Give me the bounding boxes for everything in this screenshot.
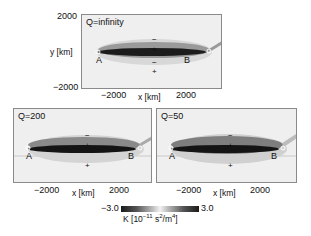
point-a-label: A	[96, 55, 102, 65]
panel-q-50: Q=50 A B − + +	[156, 108, 297, 183]
x-tick-left: −2000	[176, 185, 201, 195]
x-tick-left: −2000	[34, 185, 59, 195]
cb-label-exp: −11	[143, 213, 153, 219]
point-a-label: A	[169, 151, 175, 161]
colorbar-max: 3.0	[201, 203, 214, 213]
panel-label: Q=200	[18, 111, 45, 121]
colorbar	[121, 206, 199, 212]
x-tick-right: 2000	[109, 185, 129, 195]
point-a-label: A	[26, 151, 32, 161]
cb-label-part: ]	[175, 214, 177, 224]
point-b-label: B	[128, 151, 134, 161]
x-tick-left: −2000	[101, 90, 126, 100]
point-b-label: B	[184, 55, 190, 65]
colorbar-label: K [10−11 s2/m4]	[123, 213, 178, 224]
sign-minus: −	[152, 58, 157, 67]
sign-plus: +	[228, 161, 233, 170]
sign-plus: +	[228, 141, 233, 150]
colorbar-min: −3.0	[101, 203, 119, 213]
x-axis-label: x [km]	[72, 188, 95, 198]
panel-label: Q=infinity	[86, 17, 124, 27]
y-axis-label: y [km]	[50, 47, 73, 57]
y-tick-bottom: −2000	[53, 82, 78, 92]
cb-label-part: K [10	[123, 214, 143, 224]
panel-q-200: Q=200 A B − + +	[13, 108, 152, 183]
sign-minus: −	[152, 35, 157, 44]
x-axis-label: x [km]	[213, 188, 236, 198]
sign-plus: +	[152, 45, 157, 54]
panel-q-infinity: Q=infinity A B − + − +	[81, 14, 222, 89]
point-b-label: B	[271, 151, 277, 161]
sign-plus: +	[85, 141, 90, 150]
sign-minus: −	[85, 131, 90, 140]
sign-minus: −	[228, 131, 233, 140]
x-tick-right: 2000	[250, 185, 270, 195]
sign-plus: +	[152, 67, 157, 76]
x-axis-label: x [km]	[138, 92, 161, 102]
cb-label-part: /m	[163, 214, 172, 224]
sign-plus: +	[85, 161, 90, 170]
y-tick-top: 2000	[57, 11, 77, 21]
x-tick-right: 2000	[176, 90, 196, 100]
panel-label: Q=50	[161, 111, 183, 121]
